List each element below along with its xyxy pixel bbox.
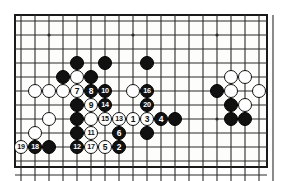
stone: [84, 112, 98, 126]
numbered-stone: 19: [14, 140, 28, 154]
stone-move-number: 5: [103, 143, 107, 152]
stone-move-number: 12: [73, 143, 80, 150]
stone-move-number: 16: [143, 87, 150, 94]
stone: [238, 112, 252, 126]
numbered-stone: 6: [112, 126, 126, 140]
numbered-stone: 15: [98, 112, 112, 126]
stone: [224, 84, 238, 98]
stone: [84, 70, 98, 84]
stone: [70, 70, 84, 84]
stone-move-number: 13: [115, 115, 122, 122]
stone-move-number: 1: [131, 115, 135, 124]
stone: [238, 70, 252, 84]
stone-move-number: 7: [75, 87, 79, 96]
stone: [70, 126, 84, 140]
star-point: [47, 33, 50, 36]
stone-move-number: 6: [117, 129, 121, 138]
stone: [42, 112, 56, 126]
star-point: [131, 33, 134, 36]
numbered-stone: 8: [84, 84, 98, 98]
stone-move-number: 2: [117, 143, 121, 152]
stone: [168, 112, 182, 126]
stone: [238, 98, 252, 112]
stone: [140, 126, 154, 140]
stone-move-number: 9: [89, 101, 93, 110]
stone: [28, 84, 42, 98]
stone-move-number: 17: [87, 143, 94, 150]
stone: [140, 56, 154, 70]
stone-move-number: 8: [89, 87, 93, 96]
numbered-stone: 13: [112, 112, 126, 126]
stone: [56, 84, 70, 98]
stone: [70, 98, 84, 112]
star-point: [215, 33, 218, 36]
numbered-stone: 1: [126, 112, 140, 126]
stone: [210, 84, 224, 98]
stone-move-number: 11: [88, 129, 95, 136]
numbered-stone: 16: [140, 84, 154, 98]
stone: [70, 56, 84, 70]
stone: [126, 84, 140, 98]
star-point: [215, 117, 218, 120]
numbered-stone: 17: [84, 140, 98, 154]
numbered-stone: 20: [140, 98, 154, 112]
numbered-stone: 4: [154, 112, 168, 126]
numbered-stone: 12: [70, 140, 84, 154]
stone-move-number: 14: [101, 101, 108, 108]
numbered-stone: 18: [28, 140, 42, 154]
numbered-stone: 3: [140, 112, 154, 126]
stone: [224, 98, 238, 112]
stone-move-number: 4: [159, 115, 163, 124]
stone-move-number: 15: [101, 115, 108, 122]
stone-move-number: 19: [17, 143, 24, 150]
stone: [98, 56, 112, 70]
stone: [28, 126, 42, 140]
stone: [56, 70, 70, 84]
stone-move-number: 18: [31, 143, 38, 150]
stone: [70, 112, 84, 126]
numbered-stone: 5: [98, 140, 112, 154]
numbered-stone: 9: [84, 98, 98, 112]
stone-move-number: 3: [145, 115, 149, 124]
stone: [42, 84, 56, 98]
stone: [224, 70, 238, 84]
numbered-stone: 11: [84, 126, 98, 140]
go-diagram-figure: 7810169142015131341161918121752: [0, 0, 282, 181]
numbered-stone: 14: [98, 98, 112, 112]
stone: [42, 140, 56, 154]
numbered-stone: 10: [98, 84, 112, 98]
stone: [224, 112, 238, 126]
stone-move-number: 20: [143, 101, 150, 108]
numbered-stone: 2: [112, 140, 126, 154]
stone: [252, 84, 266, 98]
numbered-stone: 7: [70, 84, 84, 98]
stone-move-number: 10: [101, 87, 108, 94]
